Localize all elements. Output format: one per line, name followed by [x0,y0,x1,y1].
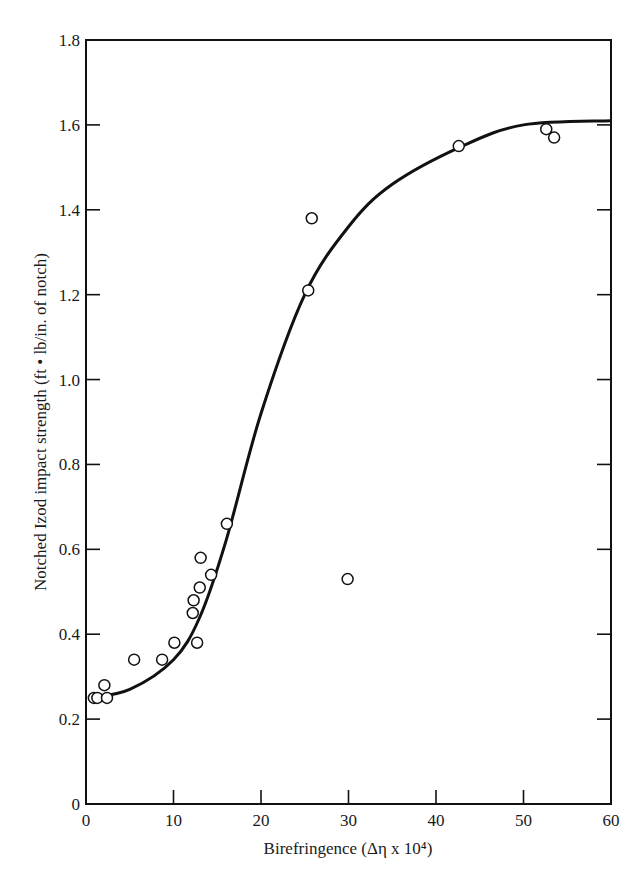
data-point [157,654,168,665]
x-tick-label: 0 [82,811,91,830]
data-point [102,692,113,703]
y-tick-label: 1.8 [59,31,80,50]
data-point [129,654,140,665]
data-point [303,285,314,296]
data-point [99,680,110,691]
data-point [453,141,464,152]
y-tick-label: 1.0 [59,371,80,390]
x-tick-label: 30 [340,811,357,830]
x-axis: 0102030405060 [82,790,620,830]
data-point [342,574,353,585]
x-tick-label: 50 [515,811,532,830]
data-point [306,213,317,224]
y-tick-label: 0 [72,795,81,814]
data-point [188,595,199,606]
data-point [221,518,232,529]
x-tick-label: 40 [428,811,445,830]
y-axis-label: Notched Izod impact strength (ft • lb/in… [31,253,50,591]
y-tick-label: 0.4 [59,625,81,644]
data-point [169,637,180,648]
y-axis: 00.20.40.60.81.01.21.41.61.8 [59,31,611,814]
x-axis-label: Birefringence (Δη x 10⁴) [264,839,433,858]
plot-frame [86,40,611,804]
x-tick-label: 60 [603,811,620,830]
y-tick-label: 0.8 [59,455,80,474]
y-tick-label: 0.6 [59,540,80,559]
data-point [206,569,217,580]
chart: 00.20.40.60.81.01.21.41.61.8 01020304050… [0,0,644,884]
data-point [549,132,560,143]
y-tick-label: 1.4 [59,201,81,220]
data-points [88,124,559,704]
y-tick-label: 1.2 [59,286,80,305]
data-point [187,608,198,619]
x-tick-label: 10 [165,811,182,830]
data-point [192,637,203,648]
x-tick-label: 20 [253,811,270,830]
fitted-curve [90,121,611,698]
data-point [194,582,205,593]
y-tick-label: 0.2 [59,710,80,729]
y-tick-label: 1.6 [59,116,80,135]
data-point [195,552,206,563]
